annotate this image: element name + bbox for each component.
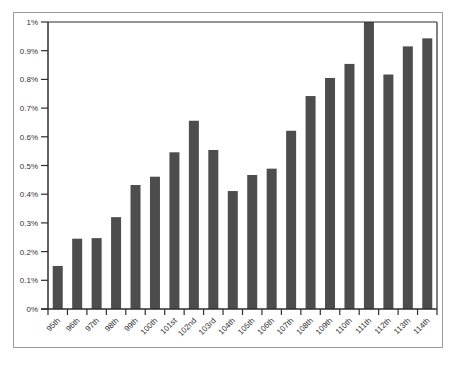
bar-101st — [169, 152, 179, 309]
x-tick-label: 106th — [256, 316, 277, 337]
y-tick-label: 0% — [26, 305, 38, 314]
x-tick-label: 103rd — [197, 316, 218, 337]
x-tick-label: 100th — [139, 316, 160, 337]
x-tick-label: 112th — [373, 316, 393, 336]
x-tick-label: 107th — [275, 316, 296, 337]
x-tick-label: 98th — [103, 316, 120, 333]
x-tick-label: 102nd — [176, 316, 198, 338]
bar-96th — [72, 239, 82, 309]
x-tick-label: 96th — [64, 316, 81, 333]
x-axis: 95th96th97th98th99th100th101st102nd103rd… — [41, 309, 437, 338]
bar-100th — [150, 177, 160, 309]
x-tick-label: 104th — [217, 316, 238, 337]
bar-107th — [286, 131, 296, 309]
y-tick-label: 0.1% — [20, 276, 38, 285]
bar-112th — [383, 75, 393, 309]
y-tick-label: 0.2% — [20, 248, 38, 257]
y-tick-label: 0.6% — [20, 133, 38, 142]
bar-109th — [325, 78, 335, 309]
y-tick-label: 0.8% — [20, 75, 38, 84]
bar-113th — [403, 46, 413, 309]
bar-chart: 0%0.1%0.2%0.3%0.4%0.5%0.6%0.7%0.8%0.9%1%… — [0, 0, 454, 365]
bar-114th — [422, 38, 432, 309]
x-tick-label: 95th — [45, 316, 62, 333]
bar-98th — [111, 217, 121, 309]
y-tick-label: 1% — [26, 18, 38, 27]
x-tick-label: 113th — [392, 316, 412, 336]
bar-103rd — [208, 150, 218, 309]
x-tick-label: 109th — [314, 316, 335, 337]
x-tick-label: 97th — [84, 316, 101, 333]
bar-104th — [228, 191, 238, 309]
y-tick-label: 0.5% — [20, 162, 38, 171]
bar-105th — [247, 175, 257, 309]
bar-106th — [267, 169, 277, 309]
x-tick-label: 108th — [294, 316, 315, 337]
x-tick-label: 110th — [334, 316, 354, 336]
x-tick-label: 111th — [354, 316, 374, 336]
bar-102nd — [189, 121, 199, 309]
bar-111th — [364, 22, 374, 309]
x-tick-label: 105th — [236, 316, 257, 337]
bar-97th — [92, 238, 102, 309]
bar-99th — [131, 185, 141, 309]
x-tick-label: 99th — [123, 316, 140, 333]
y-tick-label: 0.4% — [20, 190, 38, 199]
y-tick-label: 0.7% — [20, 104, 38, 113]
y-tick-label: 0.9% — [20, 47, 38, 56]
bars-group — [53, 22, 433, 309]
x-tick-label: 114th — [412, 316, 432, 336]
y-axis: 0%0.1%0.2%0.3%0.4%0.5%0.6%0.7%0.8%0.9%1% — [20, 18, 48, 314]
bar-95th — [53, 266, 63, 309]
bar-110th — [344, 64, 354, 309]
bar-108th — [306, 96, 316, 309]
y-tick-label: 0.3% — [20, 219, 38, 228]
